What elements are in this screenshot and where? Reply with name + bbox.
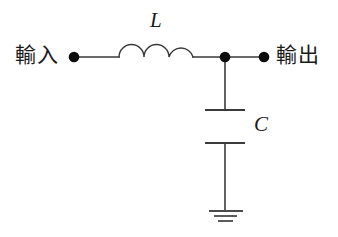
inductor-label: L (150, 10, 162, 31)
circuit-schematic (0, 0, 338, 237)
circuit-diagram-canvas: 輸入 輸出 L C (0, 0, 338, 237)
input-terminal-node (69, 52, 80, 63)
input-label: 輸入 (15, 45, 59, 66)
output-terminal-node (259, 52, 270, 63)
junction-node (220, 52, 231, 63)
inductor-coil-icon (119, 45, 193, 58)
output-label: 輸出 (276, 45, 320, 66)
capacitor-label: C (254, 114, 268, 135)
